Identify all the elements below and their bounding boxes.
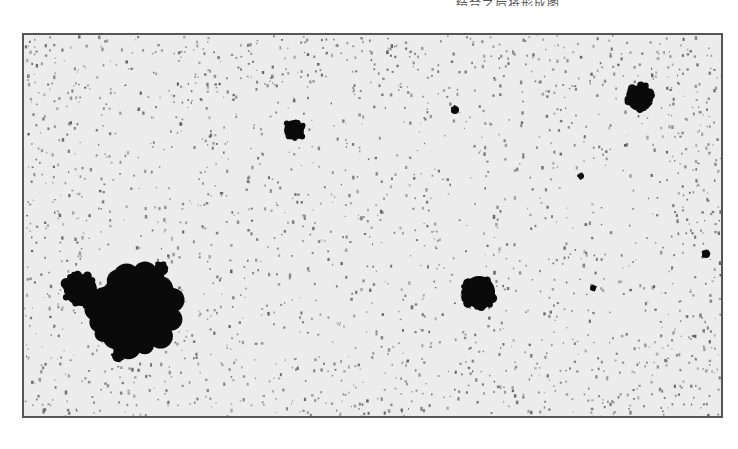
cropped-caption-text: ……………………………………………………………………………………结合之后将形成图 [40,0,700,6]
micrograph-frame [22,33,723,418]
micrograph-image [24,35,723,418]
